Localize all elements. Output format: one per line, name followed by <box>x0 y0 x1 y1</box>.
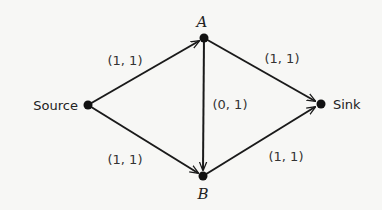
edge-a-b <box>203 38 204 170</box>
edge-source-b <box>88 105 198 173</box>
edge-a-sink <box>204 38 315 101</box>
edge-label-a-sink: (1, 1) <box>265 51 300 66</box>
node-sink <box>317 100 326 109</box>
node-sink-label: Sink <box>333 97 361 112</box>
node-a-label: A <box>195 13 208 31</box>
edge-label-source-a: (1, 1) <box>108 53 143 68</box>
edge-label-a-b: (0, 1) <box>213 97 248 112</box>
node-a <box>200 34 209 43</box>
node-b-label: B <box>196 185 208 203</box>
edge-label-b-sink: (1, 1) <box>269 149 304 164</box>
node-b <box>199 172 208 181</box>
edge-b-sink <box>203 107 315 176</box>
node-source-label: Source <box>33 98 78 113</box>
node-source <box>84 101 93 110</box>
flow-network-diagram: Source A B Sink (1, 1) (1, 1) (0, 1) (1,… <box>0 0 382 210</box>
edge-source-a <box>88 41 199 105</box>
edge-label-source-b: (1, 1) <box>108 152 143 167</box>
